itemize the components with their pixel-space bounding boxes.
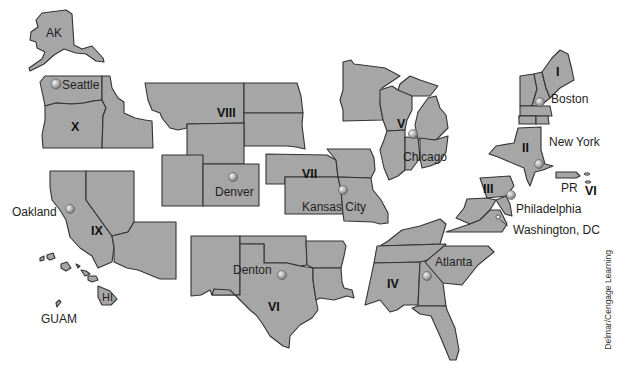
guam-label: GUAM bbox=[41, 312, 77, 326]
seattle-marker[interactable] bbox=[51, 79, 61, 89]
region-viii-label: VIII bbox=[217, 106, 236, 120]
region-iv: IV Atlanta bbox=[365, 219, 494, 360]
oakland-marker[interactable] bbox=[66, 205, 75, 214]
boston-label: Boston bbox=[551, 92, 588, 106]
denver-label: Denver bbox=[215, 185, 254, 199]
region-ix-label: IX bbox=[91, 224, 103, 238]
region-i-label: I bbox=[556, 65, 559, 79]
region-x-label: X bbox=[71, 120, 80, 134]
washington-dc-label: Washington, DC bbox=[513, 223, 600, 237]
seattle-label: Seattle bbox=[62, 78, 100, 92]
denver-marker[interactable] bbox=[229, 173, 238, 182]
region-ii-label: II bbox=[522, 141, 529, 155]
chicago-marker[interactable] bbox=[409, 130, 418, 139]
region-v-label: V bbox=[397, 117, 406, 131]
region-iv-label: IV bbox=[387, 277, 399, 291]
region-ix: IX Oakland HI GUAM bbox=[12, 171, 176, 326]
philadelphia-marker[interactable] bbox=[507, 191, 516, 200]
image-credit: Delmar/Cengage Learning bbox=[603, 250, 615, 373]
region-x: X Seattle bbox=[40, 76, 153, 148]
region-iii-label: III bbox=[483, 182, 493, 196]
washington-dc-marker[interactable] bbox=[496, 215, 500, 219]
kansas-city-label: Kansas City bbox=[302, 200, 366, 214]
region-viii: VIII Denver bbox=[145, 83, 305, 206]
chicago-label: Chicago bbox=[403, 150, 447, 164]
boston-marker[interactable] bbox=[536, 98, 545, 107]
region-vi: VI Denton bbox=[191, 236, 354, 348]
alaska: AK bbox=[29, 10, 104, 71]
new-york-label: New York bbox=[549, 135, 601, 149]
denton-marker[interactable] bbox=[278, 271, 287, 280]
region-vi-caribbean-label: VI bbox=[585, 184, 597, 198]
hi-label: HI bbox=[102, 291, 113, 303]
oakland-label: Oakland bbox=[12, 205, 57, 219]
denton-label: Denton bbox=[233, 263, 272, 277]
ak-label: AK bbox=[46, 26, 62, 40]
region-vii-label: VII bbox=[302, 167, 317, 181]
region-i: I Boston bbox=[519, 50, 588, 124]
pr-label: PR bbox=[561, 181, 578, 195]
hhs-regions-map: AK X Seattle VIII Denver IX bbox=[0, 0, 622, 373]
region-vi-label: VI bbox=[268, 300, 280, 314]
atlanta-marker[interactable] bbox=[423, 272, 432, 281]
region-vii: VII Kansas City bbox=[266, 149, 388, 224]
philadelphia-label: Philadelphia bbox=[516, 202, 582, 216]
kansas-city-marker[interactable] bbox=[339, 186, 348, 195]
new-york-marker[interactable] bbox=[535, 160, 544, 169]
atlanta-label: Atlanta bbox=[435, 255, 473, 269]
